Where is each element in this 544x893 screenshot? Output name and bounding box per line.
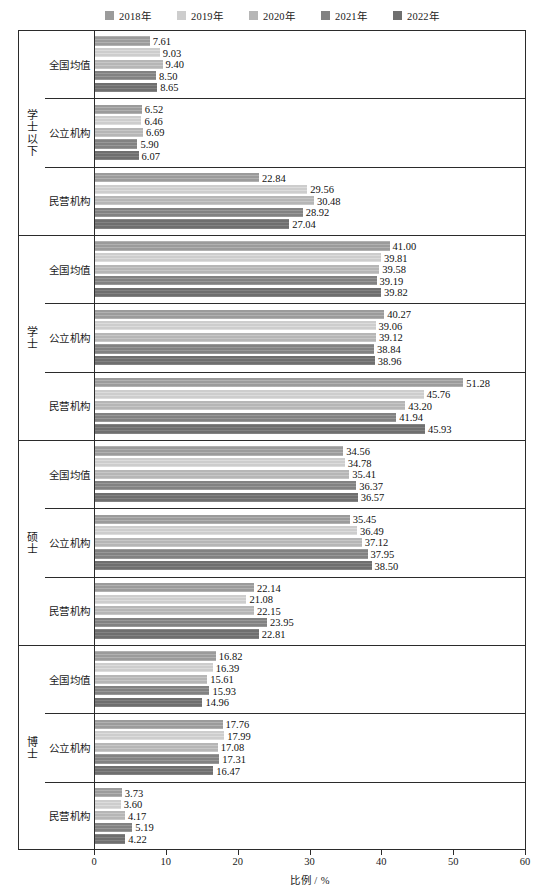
legend-item-2021年[interactable]: 2021年 [321,8,367,23]
bar-value-label: 37.95 [368,549,395,560]
bar-item[interactable]: 27.04 [95,219,526,228]
bar-item[interactable]: 39.19 [95,276,526,285]
bar-value-label: 22.15 [254,605,281,616]
bar-item[interactable]: 51.28 [95,378,526,387]
bar-item[interactable]: 4.22 [95,834,526,843]
bar-value-label: 15.93 [209,685,236,696]
bar-stack: 6.526.466.695.906.07 [95,98,526,166]
institution-row: 公立机构17.7617.9917.0817.3116.47 [18,713,526,781]
bar-item[interactable]: 17.76 [95,720,526,729]
chart-container: 2018年2019年2020年2021年2022年 学士以下全国均值7.619.… [0,0,544,893]
bar-2020年 [95,128,143,137]
bar-item[interactable]: 37.12 [95,538,526,547]
legend-item-2022年[interactable]: 2022年 [393,8,439,23]
bar-2019年 [95,116,141,125]
bar-item[interactable]: 41.00 [95,241,526,250]
bar-item[interactable]: 30.48 [95,196,526,205]
bar-item[interactable]: 36.49 [95,526,526,535]
legend-item-2018年[interactable]: 2018年 [105,8,151,23]
bar-item[interactable]: 15.61 [95,675,526,684]
bar-item[interactable]: 22.14 [95,583,526,592]
bar-item[interactable]: 14.96 [95,698,526,707]
bar-value-label: 36.57 [358,492,385,503]
legend-item-2020年[interactable]: 2020年 [249,8,295,23]
bar-item[interactable]: 34.78 [95,458,526,467]
bar-item[interactable]: 17.31 [95,754,526,763]
x-axis-tick-label: 60 [520,856,531,867]
bar-item[interactable]: 8.50 [95,71,526,80]
bar-item[interactable]: 16.47 [95,766,526,775]
bar-value-label: 23.95 [267,617,294,628]
bar-item[interactable]: 39.06 [95,321,526,330]
bar-2022年 [95,698,202,707]
bar-item[interactable]: 5.90 [95,139,526,148]
bar-item[interactable]: 40.27 [95,310,526,319]
bar-value-label: 17.08 [218,742,245,753]
bar-item[interactable]: 36.57 [95,493,526,502]
bar-item[interactable]: 29.56 [95,185,526,194]
bar-item[interactable]: 23.95 [95,618,526,627]
bar-item[interactable]: 37.95 [95,549,526,558]
bar-stack: 22.8429.5630.4828.9227.04 [95,167,526,235]
bar-item[interactable]: 16.82 [95,651,526,660]
chart-legend: 2018年2019年2020年2021年2022年 [0,8,544,23]
bar-item[interactable]: 4.17 [95,811,526,820]
institution-row: 全国均值7.619.039.408.508.65 [18,30,526,98]
bar-item[interactable]: 16.39 [95,663,526,672]
bar-item[interactable]: 17.08 [95,743,526,752]
legend-swatch-icon [321,11,330,20]
bar-item[interactable]: 6.69 [95,128,526,137]
bar-item[interactable]: 39.82 [95,288,526,297]
bar-value-label: 17.76 [223,719,250,730]
bar-item[interactable]: 3.60 [95,800,526,809]
bar-value-label: 4.22 [125,834,146,845]
legend-item-2019年[interactable]: 2019年 [177,8,223,23]
bar-item[interactable]: 36.37 [95,481,526,490]
bar-item[interactable]: 22.81 [95,629,526,638]
bar-item[interactable]: 8.65 [95,83,526,92]
bar-2021年 [95,139,137,148]
bar-item[interactable]: 15.93 [95,686,526,695]
bar-2019年 [95,253,381,262]
bar-stack: 51.2845.7643.2041.9445.93 [95,372,526,440]
bar-item[interactable]: 38.96 [95,356,526,365]
degree-group-学士以下: 学士以下全国均值7.619.039.408.508.65公立机构6.526.46… [18,30,526,235]
bar-value-label: 15.61 [207,674,234,685]
bar-stack: 7.619.039.408.508.65 [95,30,526,98]
bar-item[interactable]: 39.58 [95,265,526,274]
bar-item[interactable]: 9.40 [95,60,526,69]
bar-item[interactable]: 22.15 [95,606,526,615]
bar-value-label: 6.07 [139,150,160,161]
bar-item[interactable]: 38.50 [95,561,526,570]
bar-item[interactable]: 6.52 [95,105,526,114]
bar-item[interactable]: 41.94 [95,413,526,422]
bar-item[interactable]: 43.20 [95,401,526,410]
bar-item[interactable]: 34.56 [95,446,526,455]
bar-item[interactable]: 17.99 [95,731,526,740]
bar-item[interactable]: 45.93 [95,424,526,433]
bar-stack: 22.1421.0822.1523.9522.81 [95,577,526,645]
bar-item[interactable]: 6.07 [95,151,526,160]
bar-item[interactable]: 3.73 [95,788,526,797]
bar-item[interactable]: 9.03 [95,48,526,57]
bar-item[interactable]: 28.92 [95,208,526,217]
bar-item[interactable]: 5.19 [95,823,526,832]
bar-value-label: 36.37 [356,480,383,491]
bar-item[interactable]: 45.76 [95,390,526,399]
bar-item[interactable]: 38.84 [95,344,526,353]
bar-item[interactable]: 39.81 [95,253,526,262]
bar-item[interactable]: 39.12 [95,333,526,342]
bar-item[interactable]: 35.45 [95,515,526,524]
bar-item[interactable]: 35.41 [95,470,526,479]
bar-value-label: 6.52 [142,104,163,115]
bar-2021年 [95,549,368,558]
bar-2022年 [95,629,259,638]
bar-item[interactable]: 6.46 [95,116,526,125]
institution-row: 公立机构40.2739.0639.1238.8438.96 [18,303,526,371]
bar-value-label: 39.82 [381,287,408,298]
bar-item[interactable]: 21.08 [95,595,526,604]
bar-stack: 40.2739.0639.1238.8438.96 [95,303,526,371]
bar-2021年 [95,618,267,627]
bar-item[interactable]: 7.61 [95,36,526,45]
bar-item[interactable]: 22.84 [95,173,526,182]
